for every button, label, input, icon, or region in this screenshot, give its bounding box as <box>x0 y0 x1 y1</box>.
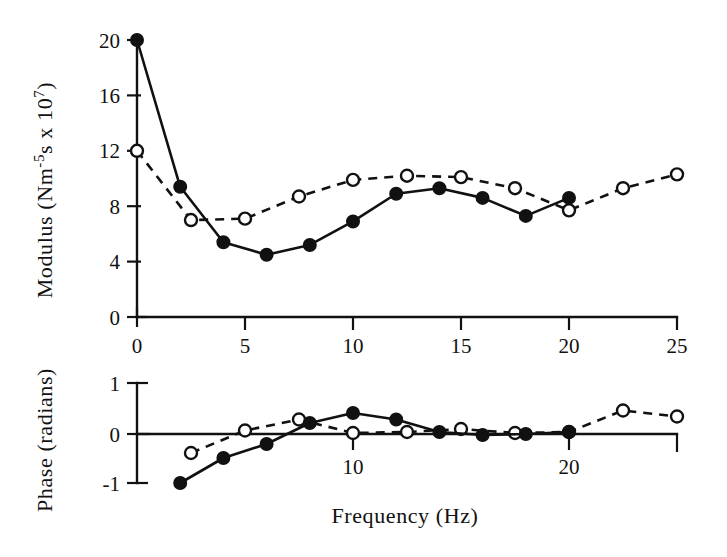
phase-ytick-neg1: -1 <box>103 472 121 496</box>
modulus-ytick-0: 0 <box>110 306 121 330</box>
phase-axis-title: Phase (radians) <box>32 368 57 512</box>
modulus-panel: Modulus (Nm-5s x 107) 0 4 8 12 16 20 <box>31 29 688 358</box>
scientific-figure: Modulus (Nm-5s x 107) 0 4 8 12 16 20 <box>0 0 727 557</box>
data-point-marker <box>476 429 488 441</box>
modulus-xtick-0: 0 <box>132 334 143 358</box>
modulus-data-layer <box>131 34 683 261</box>
phase-y-ticks <box>127 383 150 483</box>
modulus-xtick-5: 5 <box>240 334 251 358</box>
data-point-marker <box>433 426 445 438</box>
data-point-marker <box>131 145 143 157</box>
data-point-marker <box>239 425 251 437</box>
data-point-marker <box>563 192 575 204</box>
data-point-marker <box>520 210 532 222</box>
data-point-marker <box>174 181 186 193</box>
data-point-marker <box>217 452 229 464</box>
modulus-ytick-4: 4 <box>110 250 121 274</box>
data-point-marker <box>390 188 402 200</box>
x-axis-title: Frequency (Hz) <box>331 503 478 528</box>
data-point-marker <box>260 438 272 450</box>
data-point-marker <box>390 413 402 425</box>
modulus-xtick-15: 15 <box>451 334 472 358</box>
data-point-marker <box>671 168 683 180</box>
data-point-marker <box>293 191 305 203</box>
series-line-open-circle-dashed <box>137 151 677 220</box>
data-point-marker <box>455 171 467 183</box>
data-point-marker <box>476 192 488 204</box>
phase-xtick-10: 10 <box>343 455 364 479</box>
data-point-marker <box>401 170 413 182</box>
data-point-marker <box>509 182 521 194</box>
data-point-marker <box>260 248 272 260</box>
data-point-marker <box>617 405 629 417</box>
data-point-marker <box>304 417 316 429</box>
phase-panel: Phase (radians) 1 0 -1 10 20 <box>32 368 683 512</box>
data-point-marker <box>239 213 251 225</box>
modulus-xtick-20: 20 <box>559 334 580 358</box>
modulus-xtick-25: 25 <box>667 334 688 358</box>
modulus-axis-title-sup2: 7 <box>31 90 47 98</box>
data-point-marker <box>671 411 683 423</box>
data-point-marker <box>401 426 413 438</box>
data-point-marker <box>347 215 359 227</box>
phase-xtick-20: 20 <box>559 455 580 479</box>
data-point-marker <box>185 447 197 459</box>
data-point-marker <box>347 407 359 419</box>
series-line-filled-circle-solid <box>180 413 569 483</box>
data-point-marker <box>433 182 445 194</box>
modulus-axis-title-sup1: -5 <box>31 154 47 168</box>
data-point-marker <box>304 239 316 251</box>
modulus-ytick-12: 12 <box>99 139 120 163</box>
modulus-ytick-8: 8 <box>110 195 121 219</box>
modulus-axis-title-part2: s x 10 <box>32 98 57 154</box>
data-point-marker <box>131 34 143 46</box>
data-point-marker <box>347 427 359 439</box>
modulus-axis-title-part1: Modulus (Nm <box>32 168 57 299</box>
modulus-ytick-16: 16 <box>99 84 120 108</box>
modulus-ytick-20: 20 <box>99 29 120 53</box>
phase-data-layer <box>174 405 683 490</box>
phase-ytick-1: 1 <box>110 372 121 396</box>
data-point-marker <box>174 477 186 489</box>
data-point-marker <box>563 426 575 438</box>
modulus-axis-title-part3: ) <box>32 82 57 90</box>
data-point-marker <box>347 174 359 186</box>
figure-container: Modulus (Nm-5s x 107) 0 4 8 12 16 20 <box>0 0 727 557</box>
modulus-axis-title: Modulus (Nm-5s x 107) <box>31 82 57 299</box>
modulus-xtick-10: 10 <box>343 334 364 358</box>
modulus-x-ticks <box>137 307 677 330</box>
data-point-marker <box>217 236 229 248</box>
data-point-marker <box>185 214 197 226</box>
data-point-marker <box>520 428 532 440</box>
phase-ytick-0: 0 <box>110 423 121 447</box>
data-point-marker <box>617 182 629 194</box>
data-point-marker <box>563 204 575 216</box>
